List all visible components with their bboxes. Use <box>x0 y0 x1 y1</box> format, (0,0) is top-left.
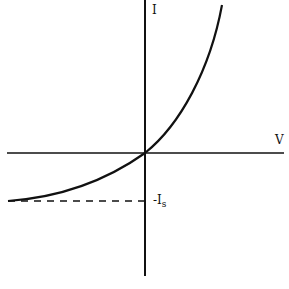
x-axis-label: V <box>275 133 284 147</box>
iv-curve <box>8 5 222 201</box>
saturation-current-label: -Is <box>153 193 166 207</box>
y-axis-label: I <box>152 3 157 17</box>
saturation-subscript: s <box>162 199 167 209</box>
diode-iv-diagram: I V -Is <box>0 0 289 289</box>
saturation-prefix: -I <box>153 193 162 207</box>
diagram-graphics <box>0 0 289 289</box>
